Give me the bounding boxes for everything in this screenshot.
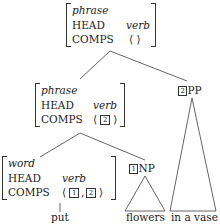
edge-top-mid xyxy=(80,51,110,79)
edge-mid-word xyxy=(40,133,80,157)
pp-triangle xyxy=(170,98,216,211)
type-label: phrase xyxy=(72,4,108,16)
feature-head: HEAD xyxy=(72,18,105,33)
angle-close: ⟩ xyxy=(113,113,117,125)
angle-open: ⟨ xyxy=(62,186,66,198)
value-head: verb xyxy=(126,18,150,33)
feature-head: HEAD xyxy=(8,171,41,186)
feature-comps: COMPS xyxy=(41,112,83,127)
angle-open: ⟨ xyxy=(93,113,97,125)
left-bracket xyxy=(2,156,7,200)
left-bracket xyxy=(66,3,71,47)
angle-close: ⟩ xyxy=(99,186,103,198)
value-head: verb xyxy=(93,98,117,113)
right-bracket xyxy=(151,3,156,47)
leaf-put: put xyxy=(51,211,69,223)
type-label: phrase xyxy=(41,84,77,96)
value-comps: ⟨ ⟩ xyxy=(129,32,141,47)
tag-box: 2 xyxy=(100,115,109,125)
tag-box: 1 xyxy=(69,188,78,198)
feature-comps: COMPS xyxy=(8,185,50,200)
feature-head: HEAD xyxy=(41,98,74,113)
left-bracket xyxy=(35,83,40,127)
separator: , xyxy=(81,186,84,198)
value-comps: ⟨ 2 ⟩ xyxy=(93,112,117,127)
avm-mid-phrase: phrase HEADverb COMPS⟨ 2 ⟩ xyxy=(41,83,119,127)
right-bracket xyxy=(120,83,125,127)
np-label: 1NP xyxy=(129,162,155,174)
feature-comps: COMPS xyxy=(72,32,114,47)
right-bracket xyxy=(111,156,116,200)
leaf-flowers: flowers xyxy=(126,211,165,223)
value-comps: ⟨ 1,2 ⟩ xyxy=(62,185,103,200)
leaf-in-a-vase: in a vase xyxy=(171,211,218,223)
avm-word: word HEADverb COMPS⟨ 1,2 ⟩ xyxy=(8,156,110,200)
edge-top-pp xyxy=(110,51,187,81)
tag-box: 2 xyxy=(86,188,95,198)
type-label: word xyxy=(8,157,35,169)
category: NP xyxy=(138,162,154,174)
value-head: verb xyxy=(62,171,86,186)
pp-label: 2PP xyxy=(178,84,202,96)
category: PP xyxy=(187,84,201,96)
np-triangle xyxy=(125,176,165,211)
avm-top-phrase: phrase HEADverb COMPS⟨ ⟩ xyxy=(72,3,150,47)
